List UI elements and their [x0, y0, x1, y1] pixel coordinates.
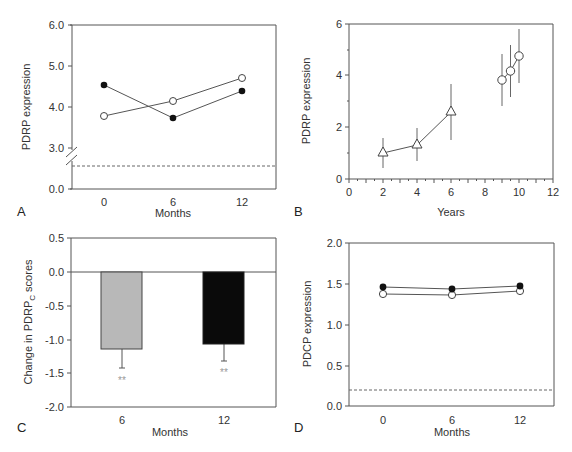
x-tick-label: 0	[346, 186, 352, 198]
panel-a: 6.0 5.0 4.0 3.0 0.0 0 6 12 Months PDRP e…	[17, 19, 276, 219]
x-axis-title: Months	[152, 426, 189, 438]
y-tick-label: 2.0	[327, 237, 342, 249]
y-tick-label: -0.5	[45, 300, 64, 312]
y-tick-label: 4	[336, 69, 342, 81]
x-tick-label: 0	[380, 414, 386, 426]
open-circle-marker	[515, 52, 523, 60]
y-tick-label: 0.0	[327, 400, 342, 412]
open-triangle-marker	[446, 106, 456, 115]
x-axis-title: Months	[155, 207, 192, 219]
open-circle-marker	[239, 75, 246, 82]
panel-d: 2.0 1.5 1.0 0.5 0.0 0 6 12 Months PDCP e…	[294, 237, 554, 438]
open-circle-marker	[506, 67, 514, 75]
panel-b: 6 4 2 0 0 2 4 6 8 10 12 Years PDRP expre…	[294, 18, 559, 219]
figure: 6.0 5.0 4.0 3.0 0.0 0 6 12 Months PDRP e…	[0, 0, 572, 452]
x-tick-label: 12	[236, 196, 248, 208]
filled-circle-marker	[101, 82, 108, 89]
y-tick-label: 5.0	[49, 60, 64, 72]
y-tick-label: 1.5	[327, 278, 342, 290]
y-tick-label: 0.0	[49, 183, 64, 195]
significance-marker: **	[220, 367, 228, 378]
y-tick-label: 0	[336, 173, 342, 185]
filled-circle-marker	[170, 115, 177, 122]
panel-c: 0.5 0.0 -0.5 -1.0 -1.5 -2.0 ** ** 6 12 M…	[17, 232, 276, 438]
x-tick-label: 6	[448, 186, 454, 198]
filled-circle-marker	[380, 284, 387, 291]
y-tick-label: 1.0	[327, 319, 342, 331]
bar-6-months	[101, 272, 142, 349]
x-tick-label: 10	[513, 186, 525, 198]
open-triangle-marker	[378, 147, 388, 156]
x-tick-label: 12	[514, 414, 526, 426]
y-tick-label: 2	[336, 121, 342, 133]
open-circle-marker	[170, 98, 177, 105]
panel-letter: B	[294, 204, 303, 219]
y-tick-label: 0.5	[49, 232, 64, 244]
x-axis-title: Months	[434, 426, 471, 438]
x-tick-label: 6	[119, 414, 125, 426]
panel-letter: A	[17, 204, 26, 219]
x-axis-title: Years	[437, 206, 465, 218]
filled-circle-marker	[239, 88, 246, 95]
x-tick-label: 12	[547, 186, 559, 198]
y-axis-title: PDCP expression	[301, 281, 313, 368]
panel-letter: C	[17, 420, 26, 435]
y-axis-title: Change in PDRPC scores	[22, 259, 37, 385]
open-circle-marker	[379, 290, 386, 297]
x-tick-label: 0	[101, 196, 107, 208]
y-tick-label: 4.0	[49, 101, 64, 113]
y-tick-label: -2.0	[45, 401, 64, 413]
y-tick-label: -1.0	[45, 334, 64, 346]
y-tick-label: -1.5	[45, 367, 64, 379]
y-tick-label: 3.0	[49, 142, 64, 154]
error-bars	[383, 29, 519, 168]
open-circle-marker	[498, 76, 506, 84]
y-axis-title: PDRP expression	[300, 58, 312, 145]
y-tick-label: 6	[336, 18, 342, 30]
x-tick-label: 12	[218, 414, 230, 426]
y-tick-label: 0.0	[49, 266, 64, 278]
filled-circle-marker	[517, 283, 524, 290]
y-axis-title: PDRP expression	[20, 64, 32, 151]
open-triangle-marker	[412, 139, 422, 148]
y-tick-label: 0.5	[327, 360, 342, 372]
y-tick-label: 6.0	[49, 19, 64, 31]
open-circle-marker	[448, 291, 455, 298]
bar-12-months	[203, 272, 244, 344]
significance-marker: **	[118, 375, 126, 386]
open-circle-marker	[101, 113, 108, 120]
x-tick-label: 8	[482, 186, 488, 198]
x-tick-label: 6	[449, 414, 455, 426]
panel-letter: D	[294, 420, 303, 435]
x-tick-label: 4	[414, 186, 420, 198]
filled-circle-marker	[449, 286, 456, 293]
x-tick-label: 2	[380, 186, 386, 198]
